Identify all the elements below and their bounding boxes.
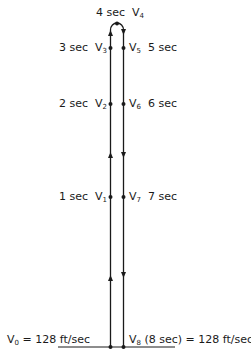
velocity-subscript: 4 [140, 12, 144, 20]
velocity-symbol: V [95, 97, 103, 110]
velocity-subscript: 3 [103, 47, 107, 55]
velocity-symbol: V [129, 97, 137, 110]
velocity-subscript: 8 [137, 339, 141, 347]
time-text: 6 sec [148, 97, 177, 110]
up-arrow-icon [108, 152, 113, 158]
down-arrow-icon [121, 272, 126, 278]
time-text: 2 sec [59, 97, 88, 110]
velocity-symbol: V [7, 333, 15, 346]
down-arrow-icon [121, 29, 126, 35]
velocity-symbol: V [95, 41, 103, 54]
label-v6: V6 6 sec [129, 98, 177, 113]
label-v2: 2 sec V2 [59, 98, 107, 113]
up-arrow-icon [108, 275, 113, 281]
velocity-subscript: 6 [137, 103, 141, 111]
point-v8 [122, 345, 126, 349]
point-v2 [109, 102, 113, 106]
time-text: 4 sec [96, 6, 125, 19]
time-text: 7 sec [148, 190, 177, 203]
label-v4: 4 sec V4 [96, 7, 144, 22]
point-v1 [109, 195, 113, 199]
final-velocity-text: (8 sec) = 128 ft/sec [145, 333, 252, 346]
label-v8: V8 (8 sec) = 128 ft/sec [129, 334, 251, 349]
label-v1: 1 sec V1 [59, 191, 107, 206]
point-v3 [109, 46, 113, 50]
label-v5: V5 5 sec [129, 42, 177, 57]
down-arrow-icon [121, 152, 126, 158]
label-v0: V0 = 128 ft/sec [7, 334, 90, 349]
time-text: 1 sec [59, 190, 88, 203]
point-v6 [122, 102, 126, 106]
velocity-symbol: V [129, 41, 137, 54]
velocity-subscript: 1 [103, 196, 107, 204]
label-v7: V7 7 sec [129, 191, 177, 206]
point-v5 [122, 46, 126, 50]
time-text: 3 sec [59, 41, 88, 54]
velocity-subscript: 2 [103, 103, 107, 111]
initial-velocity-text: = 128 ft/sec [23, 333, 90, 346]
velocity-subscript: 7 [137, 196, 141, 204]
projectile-diagram [0, 0, 251, 359]
velocity-symbol: V [129, 190, 137, 203]
point-v0 [109, 345, 113, 349]
velocity-symbol: V [132, 6, 140, 19]
velocity-subscript: 0 [15, 339, 19, 347]
point-v4 [115, 22, 119, 26]
point-v7 [122, 195, 126, 199]
up-arrow-icon [108, 30, 113, 36]
velocity-symbol: V [129, 333, 137, 346]
time-text: 5 sec [148, 41, 177, 54]
velocity-symbol: V [95, 190, 103, 203]
label-v3: 3 sec V3 [59, 42, 107, 57]
velocity-subscript: 5 [137, 47, 141, 55]
